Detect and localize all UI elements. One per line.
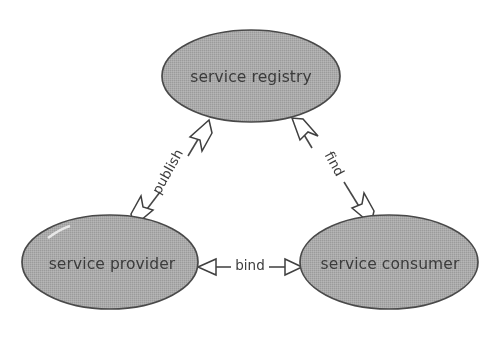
service-registry-label: service registry (190, 68, 311, 86)
soa-diagram: registry (top) --> publish consumer (low… (0, 0, 502, 340)
edge-bind: bind (198, 257, 302, 275)
node-service-consumer[interactable]: service consumer (300, 215, 478, 309)
edge-label-publish: publish (148, 146, 186, 196)
arrowhead-bind-to-provider (198, 259, 216, 275)
edge-publish: publish (131, 120, 212, 226)
edge-label-find: find (322, 148, 348, 178)
service-provider-label: service provider (49, 255, 176, 273)
node-service-registry[interactable]: service registry (162, 30, 340, 122)
service-consumer-label: service consumer (321, 255, 460, 273)
node-service-provider[interactable]: service provider (22, 215, 198, 309)
soa-diagram-canvas: registry (top) --> publish consumer (low… (0, 0, 502, 340)
edge-label-bind: bind (235, 257, 264, 273)
edge-find: find (292, 118, 374, 224)
